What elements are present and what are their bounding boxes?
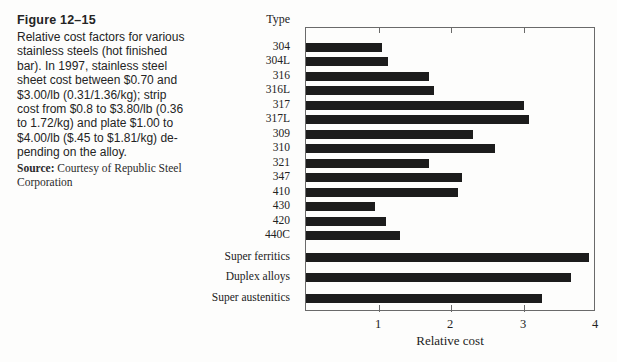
x-tick-bottom-3 [524,305,525,312]
category-label-304l: 304L [150,53,290,67]
y-axis-header: Type [150,12,290,27]
category-label-347: 347 [150,169,290,183]
category-label-316: 316 [150,68,290,82]
x-tick-top-3 [524,28,525,33]
bar-304 [306,43,382,52]
category-label-super-ferritics: Super ferritics [150,249,290,263]
category-label-316l: 316L [150,82,290,96]
x-tick-label-1: 1 [366,317,390,332]
bar-316l [306,86,434,95]
bar-duplex-alloys [306,273,571,282]
bar-420 [306,217,386,226]
category-label-309: 309 [150,126,290,140]
category-label-317: 317 [150,97,290,111]
relative-cost-bar-chart: Type Relative cost 304304L316316L317317L… [0,0,617,362]
x-tick-top-1 [379,28,380,33]
category-label-430: 430 [150,198,290,212]
bar-317l [306,115,529,124]
x-tick-top-2 [451,28,452,33]
x-tick-label-4: 4 [583,317,607,332]
bar-321 [306,159,429,168]
bar-317 [306,101,524,110]
x-tick-label-2: 2 [438,317,462,332]
x-axis-label: Relative cost [305,333,595,349]
bar-347 [306,173,462,182]
category-label-420: 420 [150,213,290,227]
category-label-304: 304 [150,39,290,53]
x-tick-label-3: 3 [511,317,535,332]
category-label-310: 310 [150,140,290,154]
bar-440c [306,231,400,240]
category-label-321: 321 [150,155,290,169]
bar-super-austenitics [306,294,542,303]
category-label-410: 410 [150,184,290,198]
x-tick-bottom-2 [451,305,452,312]
category-label-317l: 317L [150,111,290,125]
category-label-440c: 440C [150,227,290,241]
x-tick-bottom-1 [379,305,380,312]
bar-309 [306,130,473,139]
bar-430 [306,202,375,211]
category-label-super-austenitics: Super austenitics [150,290,290,304]
bar-310 [306,144,495,153]
bar-316 [306,72,429,81]
bar-304l [306,57,388,66]
bar-410 [306,188,458,197]
bar-super-ferritics [306,253,589,262]
category-label-duplex-alloys: Duplex alloys [150,269,290,283]
plot-area [305,27,595,311]
